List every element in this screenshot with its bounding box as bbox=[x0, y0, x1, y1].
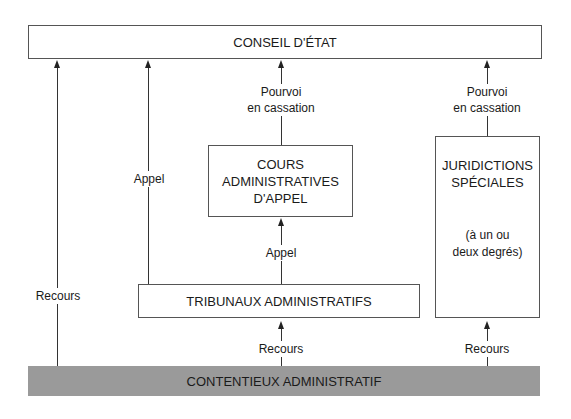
contentieux-administratif-bar: CONTENTIEUX ADMINISTRATIF bbox=[28, 366, 540, 396]
recours-ta-label: Recours bbox=[251, 341, 311, 357]
pourvoi-caa-arrow-icon bbox=[278, 60, 284, 68]
pourvoi-js-arrow-icon bbox=[484, 60, 490, 68]
recours-left-line bbox=[57, 64, 58, 366]
conseil-d-etat-box: CONSEIL D'ÉTAT bbox=[28, 25, 542, 59]
appel-center-arrow-icon bbox=[278, 218, 284, 226]
conseil-d-etat-label: CONSEIL D'ÉTAT bbox=[233, 34, 336, 51]
pourvoi-js-label: Pourvoi en cassation bbox=[442, 84, 532, 116]
appel-left-arrow-icon bbox=[145, 60, 151, 68]
recours-left-arrow-icon bbox=[54, 60, 60, 68]
appel-center-label: Appel bbox=[256, 245, 306, 261]
recours-ta-arrow-icon bbox=[278, 321, 284, 329]
tribunaux-administratifs-box: TRIBUNAUX ADMINISTRATIFS bbox=[138, 284, 420, 318]
cours-administratives-appel-box: COURS ADMINISTRATIVES D'APPEL bbox=[208, 145, 353, 217]
juridictions-speciales-box: JURIDICTIONS SPÉCIALES (à un ou deux deg… bbox=[435, 136, 540, 318]
recours-js-label: Recours bbox=[457, 341, 517, 357]
pourvoi-caa-label: Pourvoi en cassation bbox=[236, 84, 326, 116]
appel-left-label: Appel bbox=[124, 171, 174, 187]
recours-left-label: Recours bbox=[30, 288, 86, 304]
recours-js-arrow-icon bbox=[484, 321, 490, 329]
